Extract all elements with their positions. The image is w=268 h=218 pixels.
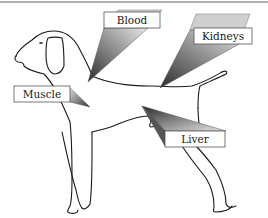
diagram-canvas: Blood Kidneys Muscle Liver xyxy=(0,0,268,218)
callout-kidneys: Kidneys xyxy=(160,14,252,88)
callout-blood: Blood xyxy=(88,10,162,82)
label-muscle: Muscle xyxy=(23,88,61,100)
label-kidneys: Kidneys xyxy=(202,30,244,42)
callout-liver: Liver xyxy=(142,106,226,147)
label-blood: Blood xyxy=(117,14,148,26)
callout-muscle: Muscle xyxy=(14,86,90,107)
label-liver: Liver xyxy=(181,133,209,145)
dog-organ-diagram: Blood Kidneys Muscle Liver xyxy=(0,0,268,218)
